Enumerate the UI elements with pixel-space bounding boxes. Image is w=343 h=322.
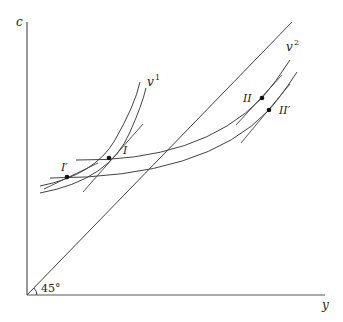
point-II	[260, 96, 265, 101]
v2-curve-lower	[50, 72, 297, 178]
y-axis-label: y	[321, 298, 329, 312]
v1-superscript: 1	[155, 73, 160, 82]
point-I	[107, 156, 112, 161]
point-I-prime-label: I′	[60, 161, 68, 174]
v1-label: v	[147, 75, 154, 89]
point-II-label: II	[242, 92, 252, 105]
economics-diagram: c y 45° v 1 v 2 I I′ II II′	[0, 0, 343, 322]
angle-label: 45°	[41, 282, 61, 295]
v2-superscript: 2	[294, 38, 299, 47]
c-axis-label: c	[16, 15, 23, 29]
v2-label: v	[286, 40, 293, 54]
tangent-at-I	[83, 124, 143, 192]
forty-five-degree-line	[27, 22, 292, 295]
point-I-label: I	[122, 144, 128, 157]
v1-curve-inner	[40, 82, 140, 186]
angle-arc	[34, 288, 37, 295]
v2-curve-upper	[76, 60, 290, 160]
point-I-prime	[65, 175, 70, 180]
point-II-prime	[267, 108, 272, 113]
point-II-prime-label: II′	[278, 104, 291, 117]
v1-curve-outer	[40, 88, 146, 193]
